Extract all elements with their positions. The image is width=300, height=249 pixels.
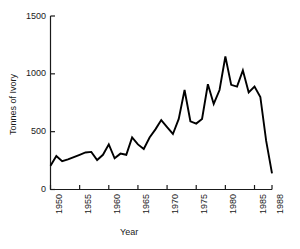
x-tick-label: 1965 xyxy=(142,194,151,234)
x-tick-label: 1955 xyxy=(84,194,93,234)
data-series-line xyxy=(51,56,273,173)
y-tick-label: 1500 xyxy=(4,12,46,21)
x-tick-label: 1950 xyxy=(55,194,64,234)
x-tick-label: 1985 xyxy=(259,194,268,234)
y-axis-title: Tonnes of Ivory xyxy=(9,60,18,150)
x-axis-title: Year xyxy=(120,228,138,237)
x-tick-label: 1975 xyxy=(200,194,209,234)
x-axis-ticks xyxy=(51,185,273,190)
axis-lines xyxy=(50,16,272,190)
y-tick-label: 0 xyxy=(4,185,46,194)
x-tick-label: 1988 xyxy=(276,194,285,234)
x-tick-label: 1970 xyxy=(171,194,180,234)
ivory-trade-line-chart: 050010001500 195019551960196519701975198… xyxy=(0,0,300,249)
x-tick-label: 1980 xyxy=(229,194,238,234)
